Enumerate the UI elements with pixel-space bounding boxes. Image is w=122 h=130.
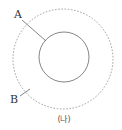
outer-dashed-circle (13, 9, 113, 109)
inner-solid-circle (39, 32, 89, 82)
diagram-canvas: A B (나) (0, 0, 122, 130)
figure-caption: (나) (57, 115, 70, 124)
leader-line-a (22, 20, 46, 41)
label-b: B (10, 93, 18, 106)
label-a: A (13, 8, 23, 21)
